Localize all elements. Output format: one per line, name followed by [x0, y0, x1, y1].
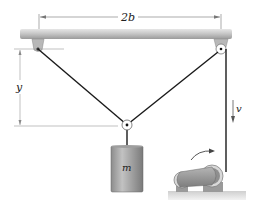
- velocity-arrow: [231, 100, 235, 123]
- winch-motor: [168, 149, 246, 201]
- rotation-arrowhead-icon: [209, 149, 215, 154]
- mass-label: m: [122, 162, 131, 173]
- arrow-down-icon: [19, 120, 22, 125]
- arrow-right-icon: [214, 15, 220, 18]
- arrow-up-icon: [19, 50, 22, 55]
- winch-base: [168, 191, 246, 200]
- rotation-arrow-icon: [191, 151, 212, 160]
- arrow-down-icon: [231, 116, 235, 123]
- span-label: 2b: [120, 11, 135, 24]
- movable-pulley: [122, 120, 132, 130]
- height-dimension: [14, 49, 118, 126]
- velocity-label: v: [236, 103, 242, 114]
- ceiling-beam: [20, 29, 232, 39]
- height-label: y: [15, 81, 23, 94]
- pulley-system-diagram: 2b y v m: [0, 0, 256, 212]
- arrow-left-icon: [40, 15, 46, 18]
